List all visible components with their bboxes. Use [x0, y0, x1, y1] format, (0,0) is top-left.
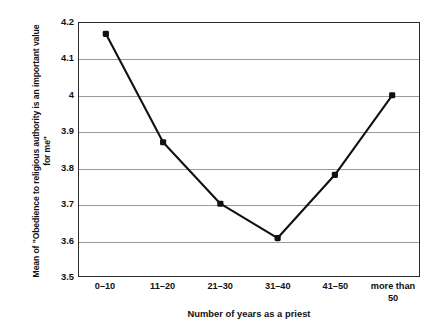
series-markers [103, 31, 395, 241]
data-point-marker [389, 92, 395, 98]
y-axis-tick-label: 3.9 [30, 126, 74, 136]
x-axis-title: Number of years as a priest [78, 308, 420, 319]
line-chart-figure: Mean of "Obedience to religious authorit… [0, 0, 441, 330]
y-axis-tick-label: 4.2 [30, 17, 74, 27]
data-series-layer [79, 23, 419, 276]
y-axis-tick-label: 3.7 [30, 199, 74, 209]
data-point-marker [160, 139, 166, 145]
data-point-marker [275, 235, 281, 241]
x-axis-tick-label: more than 50 [357, 281, 429, 304]
y-axis-tick-label: 3.6 [30, 236, 74, 246]
y-axis-tick-label: 4 [30, 90, 74, 100]
y-axis-tick-label: 3.8 [30, 163, 74, 173]
data-point-marker [217, 201, 223, 207]
plot-area [78, 22, 420, 277]
y-axis-tick-labels: 3.53.63.73.83.944.14.2 [22, 22, 74, 277]
data-point-marker [103, 31, 109, 37]
series-line [106, 34, 392, 238]
y-axis-tick-label: 4.1 [30, 53, 74, 63]
y-axis-tick-label: 3.5 [30, 272, 74, 282]
data-point-marker [332, 172, 338, 178]
